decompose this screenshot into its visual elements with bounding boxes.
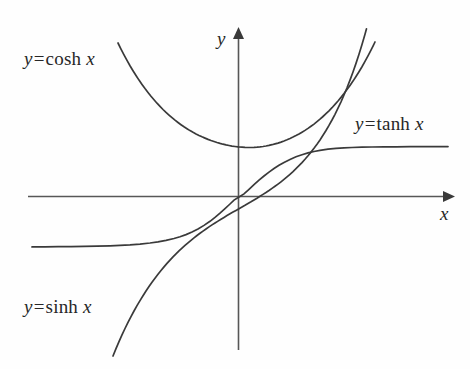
hyperbolic-functions-figure: y=cosh x y=tanh x y=sinh x y x xyxy=(0,0,470,369)
curves-group xyxy=(32,29,448,356)
x-axis-label: x xyxy=(440,203,448,225)
tanh-label-argument: x xyxy=(415,113,424,134)
sinh-label-equals: = xyxy=(33,296,46,317)
y-axis-arrowhead xyxy=(233,27,244,39)
sinh-label-argument: x xyxy=(83,296,92,317)
cosh-label-equals: = xyxy=(33,48,46,69)
sinh-label-function: sinh xyxy=(46,296,78,317)
x-axis-arrowhead xyxy=(443,191,455,202)
cosh-label-function: cosh xyxy=(46,48,82,69)
curve-label-cosh: y=cosh x xyxy=(24,48,95,70)
cosh-label-argument: x xyxy=(86,48,95,69)
cosh-curve xyxy=(118,42,375,148)
sinh-label-lhs: y xyxy=(24,296,33,317)
axes-group xyxy=(28,27,455,350)
tanh-label-equals: = xyxy=(364,113,377,134)
tanh-label-function: tanh xyxy=(377,113,411,134)
y-axis-label: y xyxy=(217,28,225,50)
curve-label-tanh: y=tanh x xyxy=(355,113,424,135)
cosh-label-lhs: y xyxy=(24,48,33,69)
tanh-label-lhs: y xyxy=(355,113,364,134)
sinh-curve xyxy=(113,29,367,356)
curve-label-sinh: y=sinh x xyxy=(24,296,92,318)
